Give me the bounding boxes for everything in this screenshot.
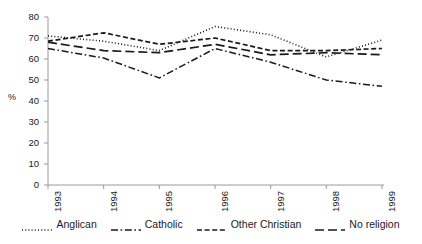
series-line-no-religion [48, 42, 382, 55]
legend-label: Anglican [56, 218, 96, 230]
legend-line-swatch [315, 220, 345, 229]
legend-label: Other Christian [231, 218, 302, 230]
legend-line-swatch [22, 220, 52, 229]
series-line-catholic [48, 49, 382, 87]
axes [44, 17, 384, 189]
legend-label: No religion [349, 218, 399, 230]
legend-label: Catholic [145, 218, 183, 230]
legend-item-other-christian[interactable]: Other Christian [197, 218, 302, 230]
data-series-group [48, 27, 382, 87]
line-chart: % 01020304050607080 19931994199519961997… [0, 0, 422, 244]
legend-item-catholic[interactable]: Catholic [111, 218, 183, 230]
legend-item-anglican[interactable]: Anglican [22, 218, 96, 230]
series-line-other-christian [48, 33, 382, 51]
plot-area [0, 0, 422, 244]
legend: AnglicanCatholicOther ChristianNo religi… [0, 218, 422, 230]
legend-line-swatch [111, 220, 141, 229]
legend-line-swatch [197, 220, 227, 229]
legend-item-no-religion[interactable]: No religion [315, 218, 399, 230]
